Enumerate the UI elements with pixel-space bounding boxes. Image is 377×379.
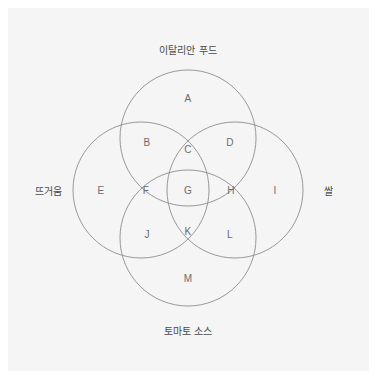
region-label-d: D: [226, 137, 233, 148]
region-label-b: B: [144, 137, 151, 148]
region-label-h: H: [227, 185, 234, 196]
region-label-e: E: [98, 185, 105, 196]
set-label-tomato-sauce: 토마토 소스: [164, 323, 212, 338]
set-label-rice: 쌀: [324, 183, 333, 198]
region-label-a: A: [185, 93, 192, 104]
region-label-g: G: [184, 185, 192, 196]
region-label-j: J: [144, 229, 149, 240]
region-label-i: I: [274, 185, 277, 196]
set-label-italian-food: 이탈리안 푸드: [159, 42, 216, 57]
venn-diagram: 이탈리안 푸드 뜨거움 쌀 토마토 소스 A B C D E F G H I J…: [0, 0, 377, 379]
set-label-hot: 뜨거움: [35, 183, 62, 198]
region-label-c: C: [184, 144, 191, 155]
region-label-l: L: [227, 229, 233, 240]
region-label-k: K: [185, 226, 192, 237]
region-label-m: M: [184, 273, 193, 284]
region-label-f: F: [143, 185, 149, 196]
